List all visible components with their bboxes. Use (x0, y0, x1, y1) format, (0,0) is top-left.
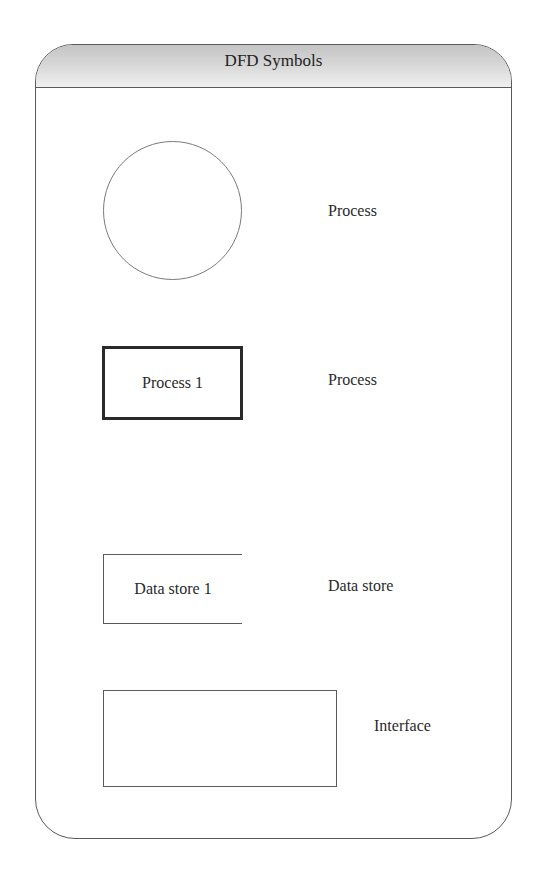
process-rectangle-symbol: Process 1 (102, 346, 243, 420)
data-store-symbol: Data store 1 (103, 554, 242, 624)
interface-label: Interface (374, 717, 431, 735)
process-rectangle-label: Process (328, 371, 377, 389)
process-rectangle-text: Process 1 (142, 374, 203, 392)
data-store-text: Data store 1 (134, 580, 211, 598)
panel-header: DFD Symbols (36, 45, 511, 88)
interface-symbol (103, 690, 337, 787)
process-circle-label: Process (328, 202, 377, 220)
panel-title: DFD Symbols (225, 51, 323, 71)
data-store-label: Data store (328, 577, 393, 595)
process-circle-symbol (103, 141, 242, 280)
